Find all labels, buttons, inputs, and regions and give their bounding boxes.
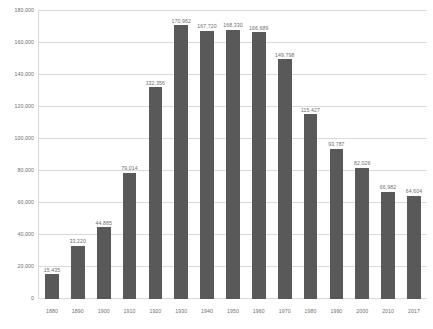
x-tick-slot: 2010	[375, 299, 401, 313]
bar-slot: 168,330	[220, 11, 246, 299]
x-axis-tick-label: 1930	[175, 308, 187, 314]
x-axis-labels: 1880189019001910192019301940195019601970…	[39, 299, 427, 313]
bar[interactable]: 132,356	[149, 87, 163, 299]
bar-value-label: 132,356	[146, 80, 165, 86]
x-tick-slot: 2017	[401, 299, 427, 313]
bar-slot: 66,982	[375, 11, 401, 299]
bar-slot: 15,435	[39, 11, 65, 299]
x-tick-slot: 1980	[298, 299, 324, 313]
bar-value-label: 170,962	[171, 18, 190, 24]
bar[interactable]: 93,787	[330, 149, 344, 299]
x-axis-tick-label: 1900	[98, 308, 110, 314]
bar-value-label: 44,885	[95, 220, 111, 226]
x-tick-slot: 1960	[246, 299, 272, 313]
x-axis-tick-label: 1960	[253, 308, 265, 314]
x-axis-tick-label: 1980	[305, 308, 317, 314]
bar[interactable]: 64,604	[407, 196, 421, 299]
bar-slot: 44,885	[91, 11, 117, 299]
bar[interactable]: 166,689	[252, 32, 266, 299]
y-axis-tick-label: 20,000	[18, 263, 34, 269]
bar-slot: 33,220	[65, 11, 91, 299]
bars-group: 15,43533,22044,88579,014132,356170,96216…	[39, 11, 427, 299]
bar-value-label: 66,982	[380, 184, 396, 190]
x-axis-tick-label: 1990	[330, 308, 342, 314]
bar-chart: 020,00040,00060,00080,000100,000120,0001…	[0, 0, 433, 329]
x-tick-slot: 1930	[168, 299, 194, 313]
bar[interactable]: 149,798	[278, 59, 292, 299]
x-tick-slot: 1940	[194, 299, 220, 313]
x-tick-slot: 1910	[117, 299, 143, 313]
y-axis-tick-label: 40,000	[18, 231, 34, 237]
plot-area: 020,00040,00060,00080,000100,000120,0001…	[38, 11, 427, 299]
y-axis-tick-label: 60,000	[18, 199, 34, 205]
bar-value-label: 167,720	[197, 23, 216, 29]
bar-value-label: 93,787	[328, 141, 344, 147]
bar-slot: 115,427	[298, 11, 324, 299]
x-tick-slot: 1880	[39, 299, 65, 313]
x-axis-tick-label: 1890	[72, 308, 84, 314]
bar-slot: 79,014	[117, 11, 143, 299]
x-tick-slot: 1920	[142, 299, 168, 313]
y-axis-tick-label: 80,000	[18, 167, 34, 173]
x-tick-slot: 2000	[349, 299, 375, 313]
bar[interactable]: 115,427	[304, 114, 318, 299]
bar-slot: 132,356	[142, 11, 168, 299]
bar-value-label: 168,330	[223, 22, 242, 28]
x-axis-tick-label: 1970	[279, 308, 291, 314]
bar-value-label: 166,689	[249, 25, 268, 31]
bar-slot: 167,720	[194, 11, 220, 299]
bar[interactable]: 168,330	[226, 30, 240, 299]
y-axis-tick-label: 160,000	[15, 39, 34, 45]
bar-slot: 149,798	[272, 11, 298, 299]
x-axis-tick-label: 1910	[124, 308, 136, 314]
bar[interactable]: 79,014	[123, 173, 137, 299]
bar-slot: 166,689	[246, 11, 272, 299]
bar-value-label: 82,026	[354, 160, 370, 166]
y-axis-tick-label: 0	[31, 295, 34, 301]
x-axis-tick-label: 1950	[227, 308, 239, 314]
bar[interactable]: 44,885	[97, 227, 111, 299]
bar-slot: 64,604	[401, 11, 427, 299]
x-axis-tick-label: 1940	[201, 308, 213, 314]
y-axis-tick-label: 140,000	[15, 71, 34, 77]
x-tick-slot: 1900	[91, 299, 117, 313]
bar-value-label: 149,798	[275, 52, 294, 58]
bar-value-label: 79,014	[121, 165, 137, 171]
x-tick-slot: 1950	[220, 299, 246, 313]
x-axis-tick-label: 1880	[46, 308, 58, 314]
bar[interactable]: 170,962	[174, 25, 188, 299]
y-axis-tick-label: 180,000	[15, 7, 34, 13]
x-axis-tick-label: 2017	[408, 308, 420, 314]
x-axis-tick-label: 1920	[149, 308, 161, 314]
bar[interactable]: 15,435	[45, 274, 59, 299]
bar-value-label: 15,435	[44, 267, 60, 273]
x-tick-slot: 1890	[65, 299, 91, 313]
bar-slot: 82,026	[349, 11, 375, 299]
y-axis-tick-label: 100,000	[15, 135, 34, 141]
bar[interactable]: 66,982	[381, 192, 395, 299]
bar-value-label: 64,604	[406, 188, 422, 194]
bar-value-label: 33,220	[70, 238, 86, 244]
bar[interactable]: 33,220	[71, 246, 85, 299]
x-tick-slot: 1970	[272, 299, 298, 313]
bar[interactable]: 82,026	[355, 168, 369, 299]
x-axis-tick-label: 2000	[356, 308, 368, 314]
bar-slot: 170,962	[168, 11, 194, 299]
y-axis-tick-label: 120,000	[15, 103, 34, 109]
x-tick-slot: 1990	[323, 299, 349, 313]
bar-value-label: 115,427	[301, 107, 320, 113]
bar-slot: 93,787	[323, 11, 349, 299]
bar[interactable]: 167,720	[200, 31, 214, 299]
x-axis-tick-label: 2010	[382, 308, 394, 314]
